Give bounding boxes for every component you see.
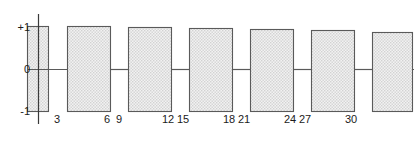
bar-segment-3 bbox=[129, 28, 172, 112]
x-axis-tick-label-3: 3 bbox=[54, 114, 60, 125]
chart-plot-area bbox=[0, 0, 414, 150]
bar-segment-7 bbox=[373, 33, 413, 112]
x-axis-tick-label-27: 27 bbox=[299, 114, 311, 125]
bar-segment-5 bbox=[251, 30, 294, 112]
y-axis-tick-label-minus-one: -1 bbox=[8, 106, 30, 117]
square-wave-chart: +1 0 -1 3 6 9 12 15 18 21 24 27 30 bbox=[0, 0, 414, 150]
x-axis-tick-label-12: 12 bbox=[162, 114, 174, 125]
x-axis-tick-label-21: 21 bbox=[238, 114, 250, 125]
x-axis-tick-label-15: 15 bbox=[177, 114, 189, 125]
x-axis-tick-label-6: 6 bbox=[104, 114, 110, 125]
x-axis-tick-label-30: 30 bbox=[345, 114, 357, 125]
x-axis-tick-label-24: 24 bbox=[284, 114, 296, 125]
bar-segment-2 bbox=[68, 27, 111, 112]
y-axis-tick-label-zero: 0 bbox=[8, 64, 30, 75]
bar-segment-6 bbox=[312, 31, 355, 112]
x-axis-tick-label-9: 9 bbox=[116, 114, 122, 125]
x-axis-tick-label-18: 18 bbox=[223, 114, 235, 125]
bar-segment-4 bbox=[190, 29, 233, 112]
y-axis-tick-label-plus-one: +1 bbox=[8, 22, 30, 33]
